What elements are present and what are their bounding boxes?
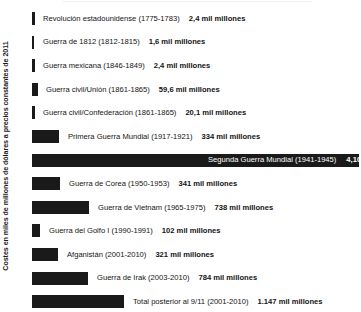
bar-label-group: Guerra del Golfo I (1990-1991)102 mil mi…: [49, 224, 221, 237]
bar-label-group: Guerra civil/Unión (1861-1865)59,6 mil m…: [46, 83, 220, 96]
bar-value-label: 1,6 mil millones: [149, 38, 206, 46]
bar-10: [32, 224, 40, 237]
bar-category-label: Revolución estadounidense (1775-1783): [43, 15, 180, 23]
bar-category-label: Guerra civil/Confederación (1861-1865): [43, 109, 176, 117]
bar-label-group: Revolución estadounidense (1775-1783)2,4…: [43, 12, 245, 25]
table-row: Primera Guerra Mundial (1917-1921)334 mi…: [32, 130, 361, 143]
bar-label-group: Segunda Guerra Mundial (1941-1945)4,104 …: [208, 154, 361, 167]
bar-category-label: Guerra de Vietnam (1965-1975): [98, 204, 206, 212]
bar-4: [32, 83, 38, 96]
bar-label-group: Guerra mexicana (1846-1849)2,4 mil millo…: [43, 59, 210, 72]
bar-8: [32, 177, 60, 190]
bar-label-group: Afganistán (2001-2010)321 mil millones: [67, 248, 214, 261]
bar-category-label: Guerra de Corea (1950-1953): [69, 180, 169, 188]
war-costs-bar-chart: Costes en miles de millones de dólares a…: [0, 0, 361, 312]
bar-label-group: Guerra de Vietnam (1965-1975)738 mil mil…: [98, 201, 273, 214]
bar-1: [32, 12, 35, 25]
table-row: Guerra mexicana (1846-1849)2,4 mil millo…: [32, 59, 361, 72]
bar-value-label: 59,6 mil millones: [159, 86, 220, 94]
bar-value-label: 334 mil millones: [202, 133, 261, 141]
bar-rows-container: Revolución estadounidense (1775-1783)2,4…: [32, 8, 361, 308]
bar-value-label: 784 mil millones: [198, 274, 257, 282]
bar-value-label: 102 mil millones: [162, 227, 221, 235]
bar-category-label: Guerra de Irak (2003-2010): [97, 274, 189, 282]
bar-9: [32, 201, 89, 214]
table-row: Guerra de Irak (2003-2010)784 mil millon…: [32, 272, 361, 285]
bar-12: [32, 272, 88, 285]
table-row: Guerra del Golfo I (1990-1991)102 mil mi…: [32, 224, 361, 237]
bar-5: [32, 106, 35, 119]
bar-value-label: 2,4 mil millones: [154, 62, 211, 70]
table-row: Afganistán (2001-2010)321 mil millones: [32, 248, 361, 261]
bar-label-group: Primera Guerra Mundial (1917-1921)334 mi…: [68, 130, 260, 143]
bar-value-label: 2,4 mil millones: [189, 15, 246, 23]
bar-category-label: Primera Guerra Mundial (1917-1921): [68, 133, 193, 141]
bar-value-label: 738 mil millones: [215, 204, 274, 212]
table-row: Guerra civil/Unión (1861-1865)59,6 mil m…: [32, 83, 361, 96]
table-row: Guerra de Corea (1950-1953)341 mil millo…: [32, 177, 361, 190]
bar-category-label: Guerra de 1812 (1812-1815): [43, 38, 140, 46]
bar-label-group: Guerra de Irak (2003-2010)784 mil millon…: [97, 272, 257, 285]
bar-category-label: Guerra del Golfo I (1990-1991): [49, 227, 153, 235]
bar-category-label: Guerra civil/Unión (1861-1865): [46, 86, 150, 94]
bar-category-label: Total posterior al 9/11 (2001-2010): [133, 298, 249, 306]
table-row: Guerra de Vietnam (1965-1975)738 mil mil…: [32, 201, 361, 214]
table-row: Total posterior al 9/11 (2001-2010)1.147…: [32, 295, 361, 308]
bar-label-group: Total posterior al 9/11 (2001-2010)1.147…: [133, 295, 323, 308]
bar-label-group: Guerra de Corea (1950-1953)341 mil millo…: [69, 177, 237, 190]
bar-category-label: Afganistán (2001-2010): [67, 251, 146, 259]
bar-value-label: 4,104 billion: [346, 156, 361, 164]
bar-value-label: 321 mil millones: [155, 251, 214, 259]
bar-13: [32, 295, 124, 308]
table-row: Guerra de 1812 (1812-1815)1,6 mil millon…: [32, 36, 361, 49]
top-divider: [62, 1, 312, 2]
y-axis-caption: Costes en miles de millones de dólares a…: [0, 0, 14, 312]
bar-value-label: 20,1 mil millones: [185, 109, 246, 117]
bar-11: [32, 248, 58, 261]
bar-2: [32, 36, 34, 49]
bar-6: [32, 130, 59, 143]
bar-category-label: Guerra mexicana (1846-1849): [43, 62, 145, 70]
bar-label-group: Guerra civil/Confederación (1861-1865)20…: [43, 106, 246, 119]
bar-value-label: 1.147 mil millones: [258, 298, 323, 306]
table-row: Segunda Guerra Mundial (1941-1945)4,104 …: [32, 154, 361, 167]
bar-label-group: Guerra de 1812 (1812-1815)1,6 mil millon…: [43, 36, 205, 49]
table-row: Revolución estadounidense (1775-1783)2,4…: [32, 12, 361, 25]
bar-value-label: 341 mil millones: [178, 180, 237, 188]
bar-category-label: Segunda Guerra Mundial (1941-1945): [208, 156, 336, 164]
table-row: Guerra civil/Confederación (1861-1865)20…: [32, 106, 361, 119]
bar-3: [32, 59, 35, 72]
